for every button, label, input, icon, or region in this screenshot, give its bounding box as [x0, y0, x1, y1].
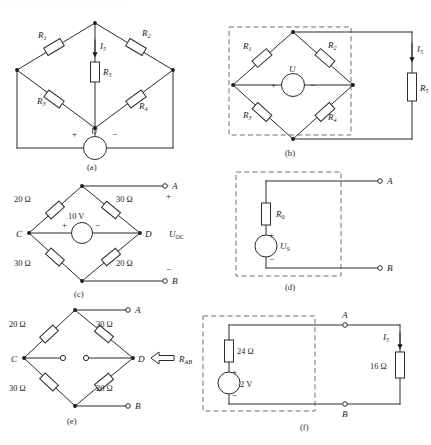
panel-e-node-top: [73, 308, 77, 312]
panel-b-r4-label: R4: [327, 112, 337, 123]
figure-canvas: R1 R2 R3 R4: [0, 0, 431, 445]
panel-e-resistor-bottom-left: [40, 373, 59, 391]
panel-c-r-bottom-left-label: 30 Ω: [14, 259, 31, 268]
panel-e-open-terminal-right: [83, 355, 88, 360]
panel-f-r-load-label: 16 Ω: [370, 362, 387, 371]
panel-b-source-minus: −: [310, 80, 315, 90]
panel-d-resistor-r0: [262, 203, 271, 225]
panel-c-node-top: [80, 184, 84, 188]
panel-b-wiring: [233, 32, 412, 139]
panel-a-r4-label: R4: [138, 101, 148, 112]
panel-d-r0-label: R0: [275, 209, 285, 220]
panel-c: 20 Ω 30 Ω 30 Ω 20 Ω 10 V + − C D A B: [14, 181, 184, 299]
panel-a-node-bottom: [93, 126, 97, 130]
panel-b-caption: (b): [285, 148, 295, 158]
panel-e-r-bottom-left-label: 30 Ω: [9, 384, 26, 393]
panel-e-resistance-label: RAB: [178, 354, 192, 365]
panel-c-r-top-right-label: 30 Ω: [116, 195, 133, 204]
panel-b-resistor-r3: [252, 103, 272, 122]
panel-a-node-right: [171, 68, 175, 72]
panel-d-node-b-label: B: [387, 263, 393, 273]
panel-e-node-a-label: A: [134, 305, 141, 315]
panel-c-node-a-label: A: [171, 181, 178, 191]
panel-f-source-value: 2 V: [240, 380, 252, 389]
panel-e-r-top-right-label: 30 Ω: [96, 320, 113, 329]
panel-a-caption: (a): [87, 162, 97, 172]
panel-b-node-left: [231, 83, 235, 87]
panel-e-r-top-left-label: 20 Ω: [9, 320, 26, 329]
panel-b-source-label: U: [289, 64, 296, 74]
panel-c-node-bottom: [80, 279, 84, 283]
panel-f-dashed-box: [203, 316, 315, 411]
panel-a-resistor-r3: [44, 90, 64, 108]
panel-b-source-u: [282, 74, 305, 97]
panel-e-caption: (e): [67, 416, 77, 426]
panel-d-node-a-label: A: [386, 176, 393, 186]
panel-f: 24 Ω 2 V + − 16 Ω I5 A B (f): [203, 310, 405, 432]
panel-a-i5-label: I5: [99, 41, 106, 52]
panel-c-terminal-a: [163, 184, 168, 189]
panel-a-resistor-r2: [126, 39, 147, 56]
panel-b-node-right: [351, 83, 355, 87]
panel-d: R0 US + − A B (d): [236, 172, 393, 292]
panel-d-source-minus: −: [269, 254, 274, 264]
panel-c-source-minus: −: [95, 220, 100, 230]
panel-f-i5-label: I5: [382, 332, 389, 343]
panel-e-wiring: [24, 310, 133, 406]
panel-a-r1-label: R1: [37, 30, 47, 41]
panel-b-r3-label: R3: [242, 110, 252, 121]
panel-b-r2-label: R2: [327, 40, 337, 51]
panel-f-source-minus: −: [232, 390, 237, 400]
panel-c-node-b-label: B: [172, 276, 178, 286]
panel-c-terminal-minus: −: [166, 264, 171, 274]
panel-c-r-top-left-label: 20 Ω: [14, 195, 31, 204]
panel-c-terminal-b: [163, 279, 168, 284]
panel-d-source-label: US: [280, 241, 291, 252]
panel-a-node-top: [93, 21, 97, 25]
panel-f-source-plus: +: [232, 367, 237, 377]
panel-c-caption: (c): [74, 289, 84, 299]
panel-f-node-a-label: A: [341, 310, 348, 320]
panel-c-resistor-top-left: [46, 201, 65, 219]
panel-b-i5-label: I5: [416, 44, 423, 55]
panel-e-node-b-label: B: [135, 401, 141, 411]
panel-f-resistor-load: [396, 352, 405, 378]
panel-b-r5-label: R5: [419, 83, 429, 94]
panel-c-node-d-label: D: [144, 229, 152, 239]
panel-e-node-left: [22, 356, 26, 360]
panel-c-terminal-plus: +: [166, 191, 171, 201]
panel-a-resistor-r5: [91, 62, 100, 82]
panel-e-open-terminal-left: [60, 355, 65, 360]
panel-e: 20 Ω 30 Ω 30 Ω 20 Ω C D A B: [9, 305, 192, 426]
panel-d-dashed-box: [236, 172, 341, 276]
panel-d-terminal-a: [378, 179, 383, 184]
panel-c-resistor-bottom-left: [46, 248, 65, 266]
panel-c-r-bottom-right-label: 20 Ω: [116, 259, 133, 268]
panel-e-resistance-arrow-icon: [151, 352, 174, 364]
panel-a-source-plus: +: [72, 129, 77, 139]
panel-b-node-top: [291, 30, 295, 34]
panel-e-node-bottom: [73, 404, 77, 408]
panel-b-r1-label: R1: [242, 41, 252, 52]
panel-f-caption: (f): [300, 422, 309, 432]
panel-c-node-right: [138, 231, 142, 235]
panel-a-r5-label: R5: [102, 67, 112, 78]
panel-f-terminal-b: [343, 402, 348, 407]
panel-f-terminal-a: [343, 323, 348, 328]
panel-b: R1 R2 R3 R4 U + −: [229, 27, 429, 158]
panel-d-wiring: [266, 181, 380, 268]
panel-b-resistor-r1: [252, 49, 272, 68]
panel-e-terminal-b: [126, 404, 131, 409]
panel-c-node-c-label: C: [16, 229, 23, 239]
panel-b-source-plus: +: [271, 80, 276, 90]
panel-c-source-value: 10 V: [68, 212, 84, 221]
panel-e-node-d-label: D: [137, 354, 145, 364]
panel-c-source-plus: +: [62, 220, 67, 230]
panel-a-node-left: [15, 68, 19, 72]
panel-e-node-c-label: C: [11, 354, 18, 364]
panel-f-resistor-internal: [225, 340, 234, 362]
panel-e-terminal-a: [126, 308, 131, 313]
panel-a-source-minus: −: [112, 129, 117, 139]
circuit-figure: ··· ····· ··· ·· ···· ··· ····· ·· ···: [0, 0, 431, 445]
panel-b-node-bottom: [291, 137, 295, 141]
